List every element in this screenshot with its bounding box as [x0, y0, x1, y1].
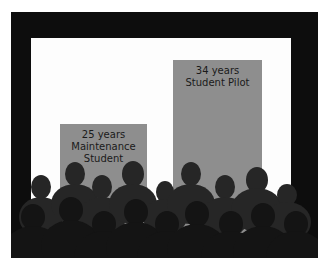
projection-frame: 25 years Maintenance Student 34 years St… — [11, 12, 318, 258]
audience-silhouettes — [11, 12, 318, 258]
